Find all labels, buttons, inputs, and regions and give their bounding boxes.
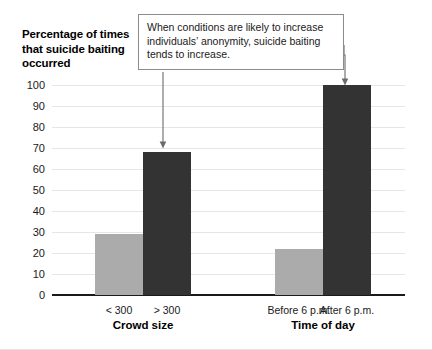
bar-chart-figure: Percentage of times that suicide baiting…	[0, 0, 432, 350]
x-group-label: Time of day	[291, 319, 355, 331]
bar	[95, 234, 143, 295]
y-tick-label: 50	[15, 184, 45, 196]
x-tick-label: < 300	[106, 304, 133, 316]
y-tick-label: 30	[15, 226, 45, 238]
y-axis-title: Percentage of times that suicide baiting…	[22, 27, 152, 71]
y-tick-label: 100	[15, 79, 45, 91]
y-tick-label: 10	[15, 268, 45, 280]
y-tick-label: 80	[15, 121, 45, 133]
bar	[275, 249, 323, 295]
y-tick-label: 0	[15, 289, 45, 301]
bar	[143, 152, 191, 295]
y-tick-label: 90	[15, 100, 45, 112]
y-tick-label: 40	[15, 205, 45, 217]
y-tick-label: 20	[15, 247, 45, 259]
y-tick-label: 60	[15, 163, 45, 175]
plot-area: 0102030405060708090100	[52, 85, 405, 295]
y-tick-label: 70	[15, 142, 45, 154]
arrow-to-time-of-day-bar	[344, 45, 345, 82]
annotation-callout: When conditions are likely to increase i…	[138, 14, 344, 70]
x-tick-label: After 6 p.m.	[320, 304, 374, 316]
x-group-label: Crowd size	[113, 319, 174, 331]
x-tick-label: > 300	[154, 304, 181, 316]
bar	[323, 85, 371, 295]
